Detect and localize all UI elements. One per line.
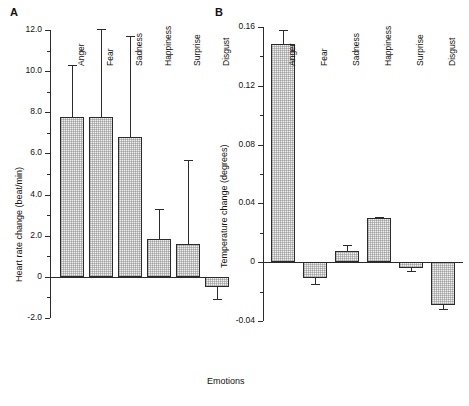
y-tick-minor (47, 133, 50, 134)
x-tick-label-fear: Fear (105, 49, 115, 66)
y-tick-label: -2.0 (2, 312, 42, 322)
error-bar-cap-surprise (407, 271, 416, 272)
error-bar-stem-anger (283, 30, 284, 45)
y-tick-label: 8.0 (2, 106, 42, 116)
bar-disgust (431, 262, 455, 305)
panel-b-letter: B (215, 6, 223, 18)
y-axis-line (50, 30, 51, 317)
y-tick-label: 0.12 (215, 80, 255, 90)
error-bar-stem-happiness (159, 209, 160, 239)
x-tick-label-anger: Anger (287, 43, 297, 66)
panel-a-plot-area: 12.010.08.06.04.02.00-2.0AngerFearSadnes… (0, 18, 215, 330)
y-tick-label: 0.04 (215, 197, 255, 207)
bar-anger (271, 44, 295, 262)
x-tick-label-surprise: Surprise (415, 34, 425, 66)
x-tick-label-happiness: Happiness (163, 26, 173, 66)
y-tick-label: 0.08 (215, 139, 255, 149)
bar-fear (89, 117, 113, 277)
bar-surprise (176, 244, 200, 277)
x-tick-label-happiness: Happiness (383, 26, 393, 66)
y-tick-label: 10.0 (2, 65, 42, 75)
error-bar-cap-sadness (343, 245, 352, 246)
panel-b-plot-area: 0.160.120.080.040-0.04AngerFearSadnessHa… (205, 18, 463, 330)
y-tick-label: 0 (2, 271, 42, 281)
y-tick-minor (47, 51, 50, 52)
x-tick-label-disgust: Disgust (447, 38, 457, 66)
x-tick-label-anger: Anger (76, 43, 86, 66)
y-tick-minor (260, 115, 263, 116)
y-tick-label: 2.0 (2, 230, 42, 240)
bar-fear (303, 262, 327, 278)
y-axis-line (263, 27, 264, 321)
x-tick-label-sadness: Sadness (351, 33, 361, 66)
x-tick-label-surprise: Surprise (192, 34, 202, 66)
error-bar-cap-happiness (375, 217, 384, 218)
y-tick-major (45, 71, 50, 72)
figure-emotions-physiology: A Heart rate change (beat/min) 12.010.08… (0, 0, 469, 406)
y-tick-major (258, 27, 263, 28)
zero-baseline (50, 277, 215, 278)
y-tick-major (45, 236, 50, 237)
bar-happiness (367, 218, 391, 262)
x-axis-label: Emotions (207, 376, 245, 386)
error-bar-stem-sadness (130, 36, 131, 137)
error-bar-stem-surprise (188, 160, 189, 244)
y-tick-label: 0.16 (215, 21, 255, 31)
y-tick-major (45, 30, 50, 31)
y-tick-label: 12.0 (2, 24, 42, 34)
error-bar-cap-anger (279, 30, 288, 31)
error-bar-cap-disgust (439, 309, 448, 310)
y-tick-label: 0 (215, 256, 255, 266)
y-tick-major (258, 203, 263, 204)
y-tick-major (258, 145, 263, 146)
y-tick-minor (47, 174, 50, 175)
y-tick-label: 4.0 (2, 189, 42, 199)
bar-anger (60, 117, 84, 277)
y-tick-major (45, 318, 50, 319)
panel-a: A Heart rate change (beat/min) 12.010.08… (0, 0, 230, 406)
x-tick-label-sadness: Sadness (134, 33, 144, 66)
y-tick-minor (260, 233, 263, 234)
y-tick-major (45, 153, 50, 154)
error-bar-stem-fear (101, 29, 102, 116)
y-tick-minor (47, 297, 50, 298)
y-tick-major (45, 277, 50, 278)
y-tick-minor (260, 174, 263, 175)
x-tick-label-fear: Fear (319, 49, 329, 66)
y-tick-major (45, 112, 50, 113)
bar-sadness (118, 137, 142, 277)
y-tick-minor (47, 256, 50, 257)
panel-b: B Temperature change (degrees) 0.160.120… (205, 0, 469, 406)
y-tick-minor (260, 56, 263, 57)
error-bar-cap-fear (97, 29, 106, 30)
bar-happiness (147, 239, 171, 277)
y-tick-major (258, 86, 263, 87)
panel-a-letter: A (10, 6, 18, 18)
y-tick-major (258, 262, 263, 263)
error-bar-cap-fear (311, 284, 320, 285)
y-tick-label: -0.04 (215, 315, 255, 325)
y-tick-minor (47, 92, 50, 93)
y-tick-label: 6.0 (2, 147, 42, 157)
y-tick-minor (47, 215, 50, 216)
y-tick-major (45, 195, 50, 196)
error-bar-stem-anger (72, 65, 73, 116)
y-tick-major (258, 321, 263, 322)
error-bar-cap-surprise (184, 160, 193, 161)
y-tick-minor (260, 292, 263, 293)
error-bar-cap-happiness (155, 209, 164, 210)
bar-sadness (335, 251, 359, 263)
